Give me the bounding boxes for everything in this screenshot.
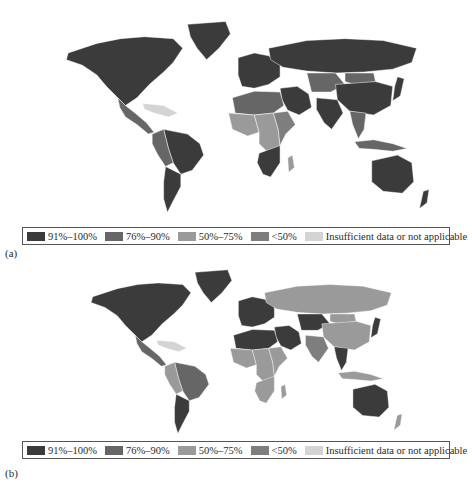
region-middle-east [274,325,301,350]
legend-label: 76%–90% [126,445,170,456]
world-map-b [20,260,460,440]
region-australia [372,155,414,193]
region-north-africa [233,330,277,350]
region-indonesia [338,371,383,381]
region-india [305,335,328,362]
legend-item: 91%–100% [27,231,97,242]
region-india [316,98,343,129]
region-central-america [135,335,166,366]
panel-label-b: (b) [5,467,18,479]
legend-item: 50%–75% [178,231,243,242]
region-russia [265,285,392,314]
legend-swatch [27,232,45,241]
legend-item: <50% [251,231,297,242]
legend-swatch [305,446,323,455]
legend-label: 50%–75% [199,231,243,242]
region-north-america [91,283,191,342]
legend-label: <50% [272,231,297,242]
legend-item: Insufficient data or not applicable [305,231,468,242]
legend-item: 76%–90% [105,231,170,242]
region-greenland [195,270,232,303]
region-madagascar [288,155,295,172]
region-japan [393,77,404,101]
legend-item: Insufficient data or not applicable [305,445,468,456]
region-north-africa [232,91,284,115]
map-panel-b: 91%–100%76%–90%50%–75%<50%Insufficient d… [0,245,472,500]
legend-label: Insufficient data or not applicable [326,445,468,456]
region-madagascar [281,384,287,399]
legend-label: Insufficient data or not applicable [326,231,468,242]
legend-swatch [105,446,123,455]
legend-a: 91%–100%76%–90%50%–75%<50%Insufficient d… [22,227,450,245]
legend-label: 91%–100% [48,445,97,456]
region-greenland [188,21,231,59]
region-southeast-asia [334,347,348,371]
map-panel-a: 91%–100%76%–90%50%–75%<50%Insufficient d… [0,0,472,245]
legend-item: <50% [251,445,297,456]
region-north-america [66,37,182,106]
legend-swatch [178,446,196,455]
legend-swatch [251,232,269,241]
legend-swatch [105,232,123,241]
region-southern-africa [257,146,280,178]
legend-label: 50%–75% [199,445,243,456]
region-south-america-south [175,394,190,433]
legend-swatch [178,232,196,241]
legend-item: 76%–90% [105,445,170,456]
legend-item: 91%–100% [27,445,97,456]
region-australia [353,384,389,417]
region-japan [371,317,381,337]
legend-label: <50% [272,445,297,456]
region-indonesia [355,140,408,151]
legend-swatch [27,446,45,455]
region-china [335,82,392,115]
region-china [322,321,371,350]
region-new-zealand [419,189,429,208]
region-middle-east [280,86,312,115]
world-map-a [20,10,460,220]
legend-label: 76%–90% [126,231,170,242]
legend-item: 50%–75% [178,445,243,456]
region-south-america-south [164,167,181,213]
region-russia [269,39,417,73]
legend-swatch [251,446,269,455]
region-central-america [118,98,154,134]
legend-label: 91%–100% [48,231,97,242]
legend-swatch [305,232,323,241]
region-southeast-asia [350,111,366,139]
region-southern-africa [255,376,275,403]
region-caribbean [143,104,178,117]
region-caribbean [157,340,187,351]
legend-b: 91%–100%76%–90%50%–75%<50%Insufficient d… [22,441,450,459]
region-new-zealand [394,414,402,430]
